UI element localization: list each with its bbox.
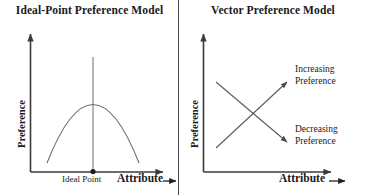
- increasing-preference-line: [216, 82, 287, 148]
- panel-left-plot: [0, 0, 179, 195]
- decreasing-preference-line: [216, 82, 287, 142]
- panel-vector-model: Vector Preference Model Preference Incre…: [179, 0, 367, 195]
- decreasing-preference-line1: Decreasing: [295, 124, 338, 136]
- decreasing-preference-line2: Preference: [295, 136, 338, 148]
- panel-ideal-point-model: Ideal-Point Preference Model Preference …: [0, 0, 179, 195]
- ideal-point-label: Ideal Point: [62, 174, 101, 184]
- decreasing-preference-annotation: Decreasing Preference: [295, 124, 338, 147]
- increasing-preference-line1: Increasing: [295, 64, 336, 76]
- panel-right-plot: [179, 0, 367, 195]
- x-axis-label: Attribute: [279, 172, 325, 184]
- x-axis-label: Attribute: [117, 172, 163, 184]
- y-axis-label: Preference: [16, 100, 27, 148]
- preference-models-figure: Ideal-Point Preference Model Preference …: [0, 0, 367, 195]
- y-axis-label: Preference: [189, 100, 200, 148]
- increasing-preference-line2: Preference: [295, 76, 336, 88]
- increasing-preference-annotation: Increasing Preference: [295, 64, 336, 87]
